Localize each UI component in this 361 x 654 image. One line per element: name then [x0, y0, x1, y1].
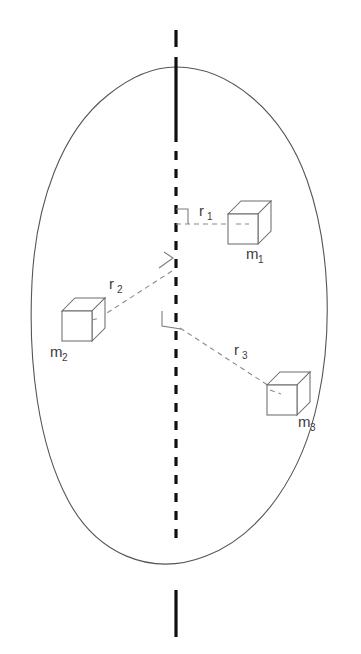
mass-label-m2-subscript: 2: [62, 352, 68, 363]
right-angle-marker-r3: [162, 311, 181, 329]
mass-cube-m1: [228, 201, 271, 244]
radius-label-r3: r: [234, 341, 239, 358]
moment-of-inertia-figure: r 1 r 2 r 3 m 1 m 2 m 3: [0, 0, 361, 654]
radius-line-r3: [180, 328, 272, 388]
radius-line-r2: [96, 271, 172, 320]
radius-label-r1: r: [199, 202, 204, 219]
radius-label-r3-subscript: 3: [242, 350, 248, 361]
radius-label-r1-subscript: 1: [207, 211, 213, 222]
radius-label-r2-subscript: 2: [117, 284, 123, 295]
mass-label-m1: m: [246, 245, 259, 262]
diagram-canvas: r 1 r 2 r 3 m 1 m 2 m 3: [0, 0, 361, 654]
mass-label-m1-subscript: 1: [258, 254, 264, 265]
mass-label-m2: m: [50, 343, 63, 360]
right-angle-marker-r1: [176, 209, 188, 224]
mass-cube-m3: [267, 372, 310, 415]
mass-label-m3: m: [298, 413, 311, 430]
mass-cube-m2: [62, 298, 105, 341]
right-angle-marker-r2: [159, 252, 173, 268]
radius-label-r2: r: [109, 275, 114, 292]
mass-label-m3-subscript: 3: [310, 422, 316, 433]
